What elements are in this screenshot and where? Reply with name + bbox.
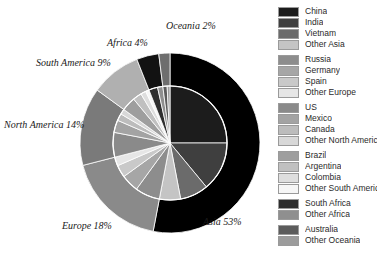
legend-swatch-icon bbox=[278, 184, 299, 194]
legend-item-label: India bbox=[305, 17, 323, 28]
legend-item[interactable]: Other Europe bbox=[278, 87, 377, 98]
legend-swatch-icon bbox=[278, 225, 299, 235]
legend-item[interactable]: Germany bbox=[278, 65, 377, 76]
legend: ChinaIndiaVietnamOther AsiaRussiaGermany… bbox=[278, 6, 377, 258]
legend-swatch-icon bbox=[278, 125, 299, 135]
legend-item-label: Spain bbox=[305, 76, 327, 87]
legend-item-label: China bbox=[305, 6, 327, 17]
legend-group-north-america: USMexicoCanadaOther North America bbox=[278, 102, 377, 146]
legend-item[interactable]: Brazil bbox=[278, 150, 377, 161]
legend-item-label: Other Europe bbox=[305, 87, 356, 98]
legend-item-label: US bbox=[305, 102, 317, 113]
legend-item-label: Brazil bbox=[305, 150, 326, 161]
legend-item-label: Argentina bbox=[305, 161, 341, 172]
legend-item-label: South Africa bbox=[305, 198, 351, 209]
legend-swatch-icon bbox=[278, 236, 299, 246]
legend-item[interactable]: South Africa bbox=[278, 198, 377, 209]
legend-item[interactable]: Vietnam bbox=[278, 28, 377, 39]
legend-swatch-icon bbox=[278, 77, 299, 87]
legend-item[interactable]: Russia bbox=[278, 54, 377, 65]
chart-page: Asia 53% Europe 18% North America 14% So… bbox=[0, 0, 377, 262]
legend-item-label: Other North America bbox=[305, 135, 377, 146]
legend-group-europe: RussiaGermanySpainOther Europe bbox=[278, 54, 377, 98]
legend-swatch-icon bbox=[278, 18, 299, 28]
pie-label-asia: Asia 53% bbox=[203, 217, 242, 227]
legend-group-asia: ChinaIndiaVietnamOther Asia bbox=[278, 6, 377, 50]
pie-label-north-america: North America 14% bbox=[4, 120, 84, 130]
legend-item[interactable]: US bbox=[278, 102, 377, 113]
legend-item[interactable]: Other North America bbox=[278, 135, 377, 146]
legend-item[interactable]: Other South America bbox=[278, 183, 377, 194]
pie-label-south-america: South America 9% bbox=[36, 58, 111, 68]
legend-item-label: Other Oceania bbox=[305, 235, 360, 246]
legend-swatch-icon bbox=[278, 173, 299, 183]
legend-item[interactable]: India bbox=[278, 17, 377, 28]
legend-item-label: Vietnam bbox=[305, 28, 336, 39]
legend-item[interactable]: Other Oceania bbox=[278, 235, 377, 246]
legend-item[interactable]: Spain bbox=[278, 76, 377, 87]
legend-swatch-icon bbox=[278, 114, 299, 124]
legend-item-label: Other Africa bbox=[305, 209, 350, 220]
pie-label-africa: Africa 4% bbox=[107, 38, 148, 48]
legend-item[interactable]: Other Africa bbox=[278, 209, 377, 220]
legend-swatch-icon bbox=[278, 7, 299, 17]
legend-swatch-icon bbox=[278, 199, 299, 209]
legend-item-label: Canada bbox=[305, 124, 335, 135]
pie-label-oceania: Oceania 2% bbox=[166, 21, 216, 31]
legend-item-label: Colombia bbox=[305, 172, 341, 183]
legend-swatch-icon bbox=[278, 88, 299, 98]
legend-item-label: Other South America bbox=[305, 183, 377, 194]
nested-pie-chart: Asia 53% Europe 18% North America 14% So… bbox=[0, 0, 272, 262]
legend-swatch-icon bbox=[278, 103, 299, 113]
legend-swatch-icon bbox=[278, 162, 299, 172]
legend-group-south-america: BrazilArgentinaColombiaOther South Ameri… bbox=[278, 150, 377, 194]
legend-item-label: Mexico bbox=[305, 113, 332, 124]
legend-item[interactable]: China bbox=[278, 6, 377, 17]
pie-label-europe: Europe 18% bbox=[62, 221, 112, 231]
legend-item[interactable]: Australia bbox=[278, 224, 377, 235]
legend-swatch-icon bbox=[278, 55, 299, 65]
legend-swatch-icon bbox=[278, 210, 299, 220]
legend-swatch-icon bbox=[278, 40, 299, 50]
legend-swatch-icon bbox=[278, 29, 299, 39]
legend-item[interactable]: Canada bbox=[278, 124, 377, 135]
legend-group-oceania: AustraliaOther Oceania bbox=[278, 224, 377, 246]
legend-item[interactable]: Argentina bbox=[278, 161, 377, 172]
legend-item[interactable]: Colombia bbox=[278, 172, 377, 183]
legend-item-label: Russia bbox=[305, 54, 331, 65]
legend-item[interactable]: Other Asia bbox=[278, 39, 377, 50]
legend-swatch-icon bbox=[278, 151, 299, 161]
legend-item-label: Germany bbox=[305, 65, 340, 76]
legend-item-label: Other Asia bbox=[305, 39, 345, 50]
legend-swatch-icon bbox=[278, 66, 299, 76]
legend-swatch-icon bbox=[278, 136, 299, 146]
legend-item[interactable]: Mexico bbox=[278, 113, 377, 124]
legend-item-label: Australia bbox=[305, 224, 338, 235]
legend-group-africa: South AfricaOther Africa bbox=[278, 198, 377, 220]
